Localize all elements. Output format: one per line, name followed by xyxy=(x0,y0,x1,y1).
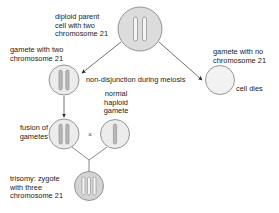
fusion-connector xyxy=(72,147,107,172)
chromosome xyxy=(82,177,85,195)
chromosome xyxy=(93,177,96,195)
fusion-label: fusion of gametes xyxy=(10,124,48,141)
parent-label: diploid parent cell with two chromosome … xyxy=(55,13,108,39)
gamete-none-cell xyxy=(206,66,235,95)
chromosome xyxy=(134,17,138,41)
normal-gamete-cell xyxy=(101,120,130,149)
arrow-to-gamete-two xyxy=(82,42,121,73)
chromosome xyxy=(66,124,69,144)
nondisjunction-label: non-disjunction during meiosis xyxy=(86,76,185,85)
gamete-none-label: gamete with no chromosome 21 xyxy=(213,48,266,65)
chromosome xyxy=(66,70,69,90)
chromosome xyxy=(59,124,62,144)
parent-cell xyxy=(118,7,162,51)
nondisjunction-diagram: × diploid parent cell with two chromosom… xyxy=(0,0,279,213)
fusion-cell xyxy=(49,119,79,149)
gamete-two-cell xyxy=(49,65,79,95)
chromosome xyxy=(113,124,116,144)
normal-gamete-label: normal haploid gamete xyxy=(101,90,131,116)
chromosome xyxy=(88,177,91,195)
cross-symbol: × xyxy=(88,131,92,138)
cell-dies-label: cell dies xyxy=(236,85,263,94)
zygote-cell xyxy=(75,172,104,201)
chromosome xyxy=(59,70,62,90)
gamete-two-label: gamete with two chromosome 21 xyxy=(10,46,63,63)
zygote-label: trisomy: zygote with three chromosome 21 xyxy=(10,175,63,201)
chromosome xyxy=(143,17,147,41)
